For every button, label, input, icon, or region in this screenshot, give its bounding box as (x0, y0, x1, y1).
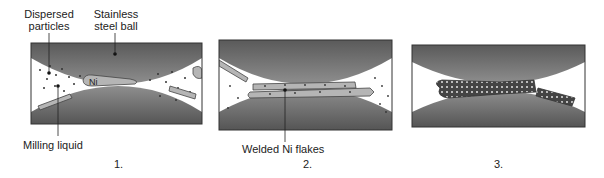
label-welded-ni-flakes: Welded Ni flakes (242, 143, 324, 155)
label-line: particles (18, 20, 80, 32)
ni-label: Ni (89, 77, 98, 87)
label-dispersed-particles: Dispersed particles (18, 8, 80, 32)
label-line: Stainless (88, 8, 144, 20)
panel-1: Ni (31, 33, 202, 136)
panel-3 (412, 45, 585, 127)
panel-number-1: 1. (114, 158, 123, 170)
welded-ni-flakes (248, 82, 374, 98)
label-steel-ball: Stainless steel ball (88, 8, 144, 32)
label-line: steel ball (88, 20, 144, 32)
label-milling-liquid: Milling liquid (23, 139, 83, 151)
panel-number-2: 2. (303, 158, 312, 170)
panel-number-3: 3. (494, 158, 503, 170)
label-line: Dispersed (18, 8, 80, 20)
panel-2 (219, 40, 392, 142)
